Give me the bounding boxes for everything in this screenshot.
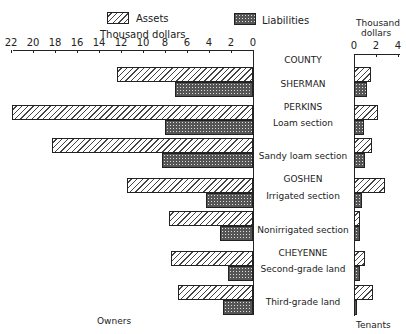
tenants-assets-bar	[354, 178, 385, 193]
owners-liabilities-bar	[162, 153, 253, 168]
tenants-assets-bar	[354, 67, 371, 82]
owners-assets-bar	[117, 67, 253, 82]
label-second-grade-land: Second-grade land	[253, 264, 353, 274]
tenants-liabilities-bar	[354, 226, 360, 241]
label-goshen: GOSHEN	[253, 174, 353, 184]
label-cheyenne: CHEYENNE	[253, 248, 353, 258]
owners-tick-label: 16	[67, 37, 87, 48]
tenants-axis-line	[354, 54, 400, 55]
owners-liabilities-bar	[175, 82, 253, 97]
owners-liabilities-bar	[228, 266, 253, 281]
owners-tick-label: 22	[1, 37, 21, 48]
owners-liabilities-bar	[206, 193, 253, 208]
tenants-assets-bar	[354, 285, 373, 300]
owners-tick-label: 4	[199, 37, 219, 48]
owners-assets-bar	[52, 138, 253, 153]
tenants-assets-bar	[354, 138, 372, 153]
tenants-liabilities-bar	[354, 153, 365, 168]
owners-tick-label: 6	[177, 37, 197, 48]
owners-tick-label: 12	[111, 37, 131, 48]
legend-liabilities-label: Liabilities	[262, 15, 309, 26]
owners-axis-line	[13, 50, 254, 51]
label-nonirrigated-section: Nonirrigated section	[253, 225, 353, 235]
owners-assets-bar	[127, 178, 254, 193]
label-county-header: COUNTY	[253, 55, 353, 65]
owners-tick	[11, 50, 12, 53]
tenants-assets-bar	[354, 105, 378, 120]
tenants-liabilities-bar	[354, 300, 357, 315]
owners-assets-bar	[178, 285, 253, 300]
tenants-liabilities-bar	[354, 193, 362, 208]
owners-tick-label: 14	[89, 37, 109, 48]
owners-tick-label: 18	[45, 37, 65, 48]
label-perkins: PERKINS	[253, 102, 353, 112]
owners-liabilities-bar	[223, 300, 253, 315]
owners-panel-label: Owners	[97, 316, 131, 326]
owners-tick-label: 0	[243, 37, 263, 48]
tenants-axis-unit-1: Thousand	[356, 18, 400, 28]
tenants-assets-bar	[354, 211, 360, 226]
owners-liabilities-bar	[220, 226, 253, 241]
tenants-assets-bar	[354, 251, 365, 266]
tenants-tick-label: 2	[366, 40, 386, 51]
owners-tick-label: 20	[23, 37, 43, 48]
label-sherman: SHERMAN	[253, 79, 353, 89]
tenants-liabilities-bar	[354, 266, 360, 281]
tenants-tick-label: 4	[388, 40, 406, 51]
tenants-liabilities-bar	[354, 82, 367, 97]
legend-assets-swatch	[107, 12, 129, 24]
owners-assets-bar	[171, 251, 254, 266]
legend-liabilities-swatch	[234, 13, 256, 25]
tenants-axis-unit-2: dollars	[361, 28, 391, 38]
label-irrigated-section: Irrigated section	[253, 191, 353, 201]
owners-assets-bar	[12, 105, 253, 120]
legend-assets-label: Assets	[136, 13, 169, 24]
owners-liabilities-bar	[165, 120, 253, 135]
label-loam-section: Loam section	[253, 118, 353, 128]
label-sandy-loam-section: Sandy loam section	[253, 151, 353, 161]
owners-tick-label: 10	[133, 37, 153, 48]
tenants-panel-label: Tenants	[356, 320, 391, 330]
tenants-liabilities-bar	[354, 120, 364, 135]
owners-tick-label: 8	[155, 37, 175, 48]
tenants-tick-label: 0	[344, 40, 364, 51]
owners-assets-bar	[169, 211, 253, 226]
owners-tick-label: 2	[221, 37, 241, 48]
label-third-grade-land: Third-grade land	[253, 297, 353, 307]
